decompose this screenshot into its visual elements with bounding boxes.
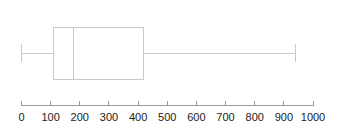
x-axis-tick-label: 400 bbox=[129, 111, 147, 124]
x-axis-tick-label: 800 bbox=[246, 111, 264, 124]
x-axis-tick-label: 100 bbox=[41, 111, 59, 124]
box-plot-figure: 01002003004005006007008009001000 bbox=[0, 0, 343, 133]
x-axis-tick-label: 500 bbox=[158, 111, 176, 124]
x-axis-tick-label: 900 bbox=[275, 111, 293, 124]
x-axis-tick-label: 0 bbox=[18, 111, 24, 124]
x-axis-tick-label: 1000 bbox=[301, 111, 325, 124]
x-axis-tick-label: 200 bbox=[71, 111, 89, 124]
x-axis-tick-label: 600 bbox=[187, 111, 205, 124]
box-iqr bbox=[54, 28, 144, 80]
x-axis-tick-label: 300 bbox=[100, 111, 118, 124]
x-axis-tick-label: 700 bbox=[216, 111, 234, 124]
